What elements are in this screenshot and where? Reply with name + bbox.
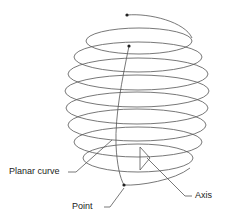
curve-top-point [127,44,130,47]
axis-label: Axis [195,190,212,200]
helix-loop-8 [83,144,193,172]
point-leader [104,188,124,207]
helix-loop-6 [68,109,206,141]
planar-curve [116,46,129,185]
helix-loop-5 [66,92,208,124]
planar-curve-label: Planar curve [9,166,60,176]
helix-end-tail [124,168,190,185]
helix-diagram: Planar curve Point Axis [0,0,227,222]
helix-loop-4 [65,75,209,107]
point-label: Point [72,201,93,211]
helix-loop-1 [86,28,192,54]
helix-drawing [0,0,227,222]
axis-symbol [140,147,150,170]
start-point [125,13,128,16]
helix-loop-2 [74,42,202,72]
helix-loop-3 [68,58,208,90]
helix-loop-7 [74,127,202,157]
bottom-point [122,183,125,186]
axis-leader [147,158,192,196]
helix-start-tail [127,15,192,38]
